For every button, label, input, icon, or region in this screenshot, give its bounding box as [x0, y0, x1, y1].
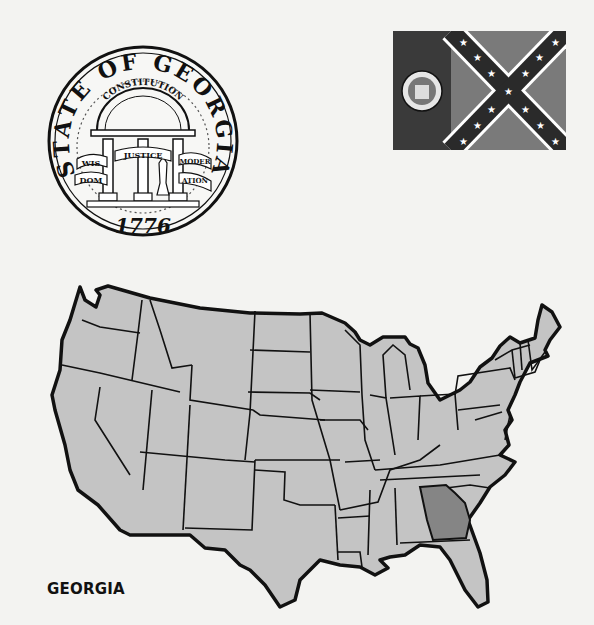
- star-icon: ★: [459, 37, 468, 48]
- svg-text:★: ★: [521, 68, 530, 79]
- svg-text:★: ★: [504, 86, 513, 97]
- svg-text:★: ★: [459, 136, 468, 147]
- seal-banner-dom: DOM: [80, 175, 103, 185]
- svg-text:★: ★: [551, 136, 560, 147]
- svg-text:★: ★: [551, 37, 560, 48]
- seal-banner-wis: WIS: [81, 158, 101, 168]
- svg-text:★: ★: [487, 104, 496, 115]
- svg-text:★: ★: [521, 104, 530, 115]
- seal-banner-justice: JUSTICE: [123, 150, 163, 160]
- seal-banner-ation: ATION: [181, 176, 209, 185]
- svg-text:★: ★: [487, 68, 496, 79]
- svg-text:★: ★: [535, 52, 544, 63]
- map-title: GEORGIA: [47, 580, 125, 598]
- state-seal: STATE OF GEORGIA CONSTITUTION WIS DOM JU…: [47, 35, 239, 247]
- us-map: [40, 280, 575, 610]
- seal-year: 1776: [115, 214, 171, 238]
- us-outline: [52, 286, 560, 607]
- svg-text:★: ★: [536, 120, 545, 131]
- seal-banner-moder: MODER: [179, 157, 210, 166]
- svg-text:★: ★: [473, 120, 482, 131]
- svg-text:★: ★: [473, 52, 482, 63]
- georgia-flag: ★ ★ ★ ★ ★ ★ ★ ★ ★ ★ ★ ★ ★: [393, 31, 566, 150]
